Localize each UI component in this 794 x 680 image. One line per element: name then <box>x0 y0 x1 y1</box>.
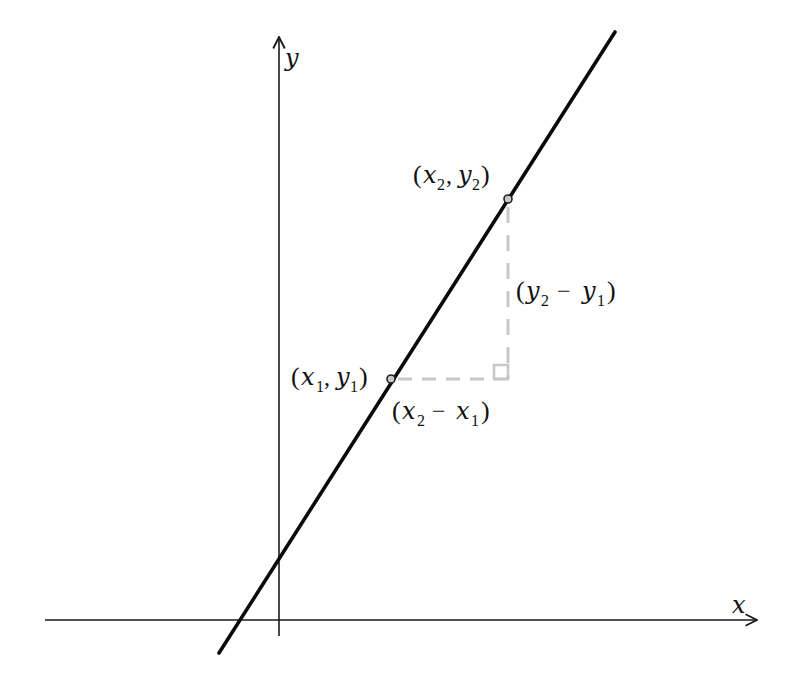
svg-text:,: , <box>446 162 452 188</box>
svg-text:(: ( <box>392 396 401 425</box>
svg-text:2: 2 <box>472 176 480 193</box>
svg-text:2: 2 <box>417 412 425 429</box>
svg-text:−: − <box>432 398 446 424</box>
svg-text:,: , <box>324 364 330 390</box>
svg-text:1: 1 <box>597 292 605 309</box>
right-angle-marker <box>494 365 508 379</box>
svg-text:1: 1 <box>350 378 358 395</box>
svg-text:(: ( <box>413 160 422 189</box>
svg-text:): ) <box>481 396 490 425</box>
svg-text:x: x <box>456 397 470 425</box>
svg-text:1: 1 <box>471 412 479 429</box>
svg-text:): ) <box>481 160 490 189</box>
svg-text:x: x <box>402 397 416 425</box>
x-axis-label: x <box>732 591 746 619</box>
svg-text:y: y <box>335 363 350 391</box>
rise-label: ( y 2 − y 1 ) <box>516 276 616 309</box>
svg-text:x: x <box>423 161 437 189</box>
svg-text:): ) <box>359 362 368 391</box>
y-axis-label: y <box>284 44 299 72</box>
svg-text:y: y <box>457 161 472 189</box>
svg-text:(: ( <box>516 276 525 305</box>
svg-text:2: 2 <box>541 292 549 309</box>
point-2-marker <box>504 195 512 203</box>
run-label: ( x 2 − x 1 ) <box>392 396 490 429</box>
svg-text:): ) <box>607 276 616 305</box>
svg-text:1: 1 <box>316 378 324 395</box>
slope-diagram: y x ( x 2 , y 2 ) ( x 1 , y 1 ) ( x 2 − … <box>0 0 794 680</box>
svg-text:−: − <box>557 278 571 304</box>
point-1-marker <box>387 375 395 383</box>
point-2-label: ( x 2 , y 2 ) <box>413 160 490 193</box>
svg-text:y: y <box>581 277 596 305</box>
svg-text:x: x <box>301 363 315 391</box>
point-1-label: ( x 1 , y 1 ) <box>291 362 368 395</box>
svg-text:2: 2 <box>437 176 445 193</box>
svg-text:(: ( <box>291 362 300 391</box>
svg-text:y: y <box>525 277 540 305</box>
